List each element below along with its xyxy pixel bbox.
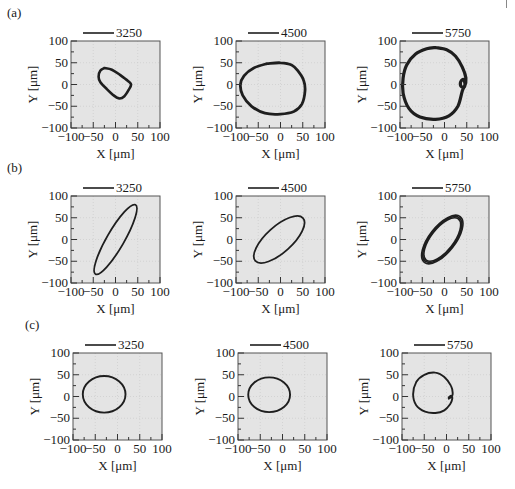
y-tick-label: 100	[51, 345, 71, 360]
subplot-c-5750: −100−50050100100500−50−100X [μm]Y [μm]57…	[356, 337, 501, 473]
x-tick-label: 100	[479, 284, 499, 299]
figure-canvas: (a)(b)(c)−100−50050100100500−50−100X [μm…	[0, 0, 515, 489]
y-tick-label: 50	[57, 367, 70, 382]
x-tick-label: 100	[317, 441, 337, 456]
x-axis-label: X [μm]	[96, 301, 134, 316]
y-tick-label: 50	[55, 210, 68, 225]
y-tick-label: 100	[49, 188, 69, 203]
y-tick-label: −50	[215, 410, 235, 425]
x-axis-label: X [μm]	[96, 146, 134, 161]
x-tick-label: 50	[131, 284, 144, 299]
x-tick-label: −50	[248, 129, 268, 144]
x-tick-label: 50	[462, 441, 475, 456]
y-tick-label: −50	[48, 98, 68, 113]
x-tick-label: 100	[315, 129, 335, 144]
x-tick-label: 0	[112, 284, 119, 299]
subplot-c-3250: −100−50050100100500−50−100X [μm]Y [μm]32…	[27, 337, 172, 473]
y-tick-label: −50	[377, 98, 397, 113]
y-tick-label: 50	[384, 210, 397, 225]
y-axis-label: Y [μm]	[356, 378, 371, 416]
y-tick-label: 0	[393, 389, 400, 404]
y-tick-label: 0	[391, 232, 398, 247]
y-tick-label: 100	[214, 188, 234, 203]
x-axis-label: X [μm]	[263, 458, 301, 473]
y-tick-label: −100	[372, 432, 399, 447]
y-tick-label: 100	[214, 33, 234, 48]
subplot-c-4500: −100−50050100100500−50−100X [μm]Y [μm]45…	[192, 337, 337, 473]
y-tick-label: 50	[384, 55, 397, 70]
y-axis-label: Y [μm]	[190, 221, 205, 259]
x-axis-label: X [μm]	[98, 458, 136, 473]
x-tick-label: 0	[112, 129, 119, 144]
y-tick-label: 0	[227, 77, 234, 92]
y-tick-label: −100	[370, 275, 397, 290]
x-axis-label: X [μm]	[427, 458, 465, 473]
panel-label: (a)	[7, 5, 21, 20]
y-tick-label: −50	[50, 410, 70, 425]
x-tick-label: −50	[250, 441, 270, 456]
x-tick-label: 100	[315, 284, 335, 299]
y-tick-label: 0	[62, 77, 69, 92]
x-tick-label: 0	[279, 441, 286, 456]
y-tick-label: 50	[55, 55, 68, 70]
y-tick-label: 0	[229, 389, 236, 404]
x-tick-label: 100	[150, 284, 170, 299]
y-axis-label: Y [μm]	[192, 378, 207, 416]
x-tick-label: 100	[479, 129, 499, 144]
x-axis-label: X [μm]	[261, 146, 299, 161]
x-tick-label: 50	[131, 129, 144, 144]
x-axis-label: X [μm]	[261, 301, 299, 316]
y-axis-label: Y [μm]	[190, 66, 205, 104]
legend-label: 3250	[116, 180, 142, 195]
y-tick-label: 50	[222, 367, 235, 382]
x-tick-label: 100	[152, 441, 172, 456]
legend-label: 4500	[283, 337, 309, 352]
x-tick-label: 0	[277, 129, 284, 144]
x-tick-label: 0	[441, 284, 448, 299]
x-tick-label: −50	[248, 284, 268, 299]
y-axis-label: Y [μm]	[25, 221, 40, 259]
y-tick-label: 0	[62, 232, 69, 247]
x-tick-label: 50	[296, 284, 309, 299]
y-tick-label: −50	[213, 98, 233, 113]
y-tick-label: −100	[43, 432, 70, 447]
x-axis-label: X [μm]	[425, 301, 463, 316]
x-tick-label: 50	[133, 441, 146, 456]
x-tick-label: −50	[85, 441, 105, 456]
legend-label: 5750	[445, 180, 471, 195]
subplot-a-4500: −100−50050100100500−50−100X [μm]Y [μm]45…	[190, 25, 335, 161]
y-tick-label: 0	[227, 232, 234, 247]
y-tick-label: −50	[48, 253, 68, 268]
y-tick-label: −50	[379, 410, 399, 425]
x-tick-label: 50	[460, 284, 473, 299]
y-tick-label: 100	[380, 345, 400, 360]
subplot-a-3250: −100−50050100100500−50−100X [μm]Y [μm]32…	[25, 25, 170, 161]
panel-label: (c)	[25, 317, 39, 332]
x-tick-label: 50	[298, 441, 311, 456]
x-tick-label: 0	[277, 284, 284, 299]
x-tick-label: 50	[460, 129, 473, 144]
y-tick-label: −100	[41, 120, 68, 135]
legend-label: 4500	[281, 180, 307, 195]
y-tick-label: 50	[220, 55, 233, 70]
legend-label: 5750	[447, 337, 473, 352]
subplot-b-4500: −100−50050100100500−50−100X [μm]Y [μm]45…	[190, 180, 335, 316]
x-tick-label: −50	[412, 129, 432, 144]
y-axis-label: Y [μm]	[25, 66, 40, 104]
y-tick-label: −100	[370, 120, 397, 135]
y-tick-label: 50	[220, 210, 233, 225]
legend-label: 3250	[118, 337, 144, 352]
legend-label: 4500	[281, 25, 307, 40]
x-tick-label: −50	[414, 441, 434, 456]
y-tick-label: 0	[64, 389, 71, 404]
x-tick-label: 100	[481, 441, 501, 456]
legend-label: 5750	[445, 25, 471, 40]
y-tick-label: −50	[377, 253, 397, 268]
y-axis-label: Y [μm]	[27, 378, 42, 416]
x-tick-label: −50	[83, 129, 103, 144]
y-tick-label: 100	[49, 33, 69, 48]
y-tick-label: 0	[391, 77, 398, 92]
y-axis-label: Y [μm]	[354, 66, 369, 104]
y-axis-label: Y [μm]	[354, 221, 369, 259]
y-tick-label: 100	[378, 33, 398, 48]
